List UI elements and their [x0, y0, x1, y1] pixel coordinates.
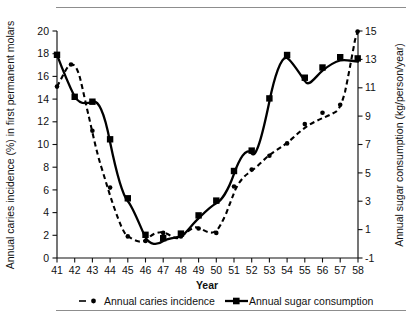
- sugar-point: [89, 99, 95, 105]
- y-left-tick-label: 18: [37, 47, 49, 59]
- caries-point: [249, 167, 254, 172]
- x-tick-label: 56: [317, 264, 329, 276]
- x-tick-label: 52: [246, 264, 258, 276]
- y-left-axis: 0 2 4 6 8 10 12 14 16 18 20 Annual carie…: [4, 21, 57, 270]
- y-right-tick-label: 1: [365, 223, 371, 235]
- legend-dot-marker-icon: [91, 299, 96, 304]
- sugar-point: [249, 147, 255, 153]
- sugar-point: [160, 235, 166, 241]
- sugar-point: [125, 195, 131, 201]
- x-axis-tick-labels: 41 42 43 44 45 46 47 48 49 50 51 52 53 5…: [51, 264, 364, 276]
- x-tick-label: 54: [281, 264, 293, 276]
- caries-point: [196, 226, 201, 231]
- y-left-tick-label: 16: [37, 70, 49, 82]
- sugar-point: [142, 232, 148, 238]
- y-left-tick-label: 0: [43, 252, 49, 264]
- caries-point: [338, 103, 343, 108]
- x-axis-ticks: [57, 258, 358, 263]
- y-left-tick-label: 8: [43, 161, 49, 173]
- y-right-tick-labels: -1 1 3 5 7 9 11 13 15: [365, 25, 377, 264]
- sugar-point: [178, 230, 184, 236]
- y-right-ticks: [358, 31, 363, 258]
- x-tick-label: 58: [352, 264, 364, 276]
- sugar-point: [107, 136, 113, 142]
- chart-legend: Annual caries incidence Annual sugar con…: [79, 295, 373, 307]
- caries-point: [161, 231, 166, 236]
- y-right-tick-label: 13: [365, 53, 377, 65]
- sugar-point: [284, 52, 290, 58]
- caries-point: [303, 122, 308, 127]
- x-tick-label: 50: [210, 264, 222, 276]
- x-tick-label: 48: [175, 264, 187, 276]
- y-right-axis-title: Annual sugar consumption (kg/person/year…: [393, 43, 405, 247]
- y-left-tick-label: 12: [37, 115, 49, 127]
- x-tick-label: 53: [264, 264, 276, 276]
- y-left-tick-labels: 0 2 4 6 8 10 12 14 16 18 20: [37, 25, 49, 264]
- x-tick-label: 45: [122, 264, 134, 276]
- sugar-point: [302, 75, 308, 81]
- caries-point: [267, 154, 272, 159]
- dual-axis-line-chart: 0 2 4 6 8 10 12 14 16 18 20 Annual carie…: [0, 0, 417, 325]
- y-right-tick-label: 5: [365, 167, 371, 179]
- y-right-tick-label: 3: [365, 195, 371, 207]
- legend-label-caries: Annual caries incidence: [104, 295, 215, 307]
- x-tick-label: 44: [104, 264, 116, 276]
- y-left-tick-label: 20: [37, 25, 49, 37]
- caries-point: [320, 110, 325, 115]
- y-left-tick-label: 10: [37, 138, 49, 150]
- y-left-tick-label: 6: [43, 184, 49, 196]
- x-tick-label: 47: [157, 264, 169, 276]
- series-annual-sugar-consumption: [54, 52, 361, 244]
- legend-item-caries[interactable]: Annual caries incidence: [79, 295, 215, 307]
- legend-label-sugar: Annual sugar consumption: [249, 295, 373, 307]
- x-tick-label: 51: [228, 264, 240, 276]
- caries-point: [108, 185, 113, 190]
- sugar-point: [54, 52, 60, 58]
- sugar-line: [57, 55, 358, 244]
- legend-square-marker-icon: [233, 298, 240, 305]
- caries-point: [232, 184, 237, 189]
- caries-point: [69, 62, 74, 67]
- caries-point: [355, 29, 360, 34]
- caries-point: [126, 234, 131, 239]
- y-left-tick-label: 14: [37, 93, 49, 105]
- figure-container: 0 2 4 6 8 10 12 14 16 18 20 Annual carie…: [0, 0, 417, 325]
- y-right-tick-label: 11: [365, 81, 376, 93]
- caries-point: [90, 129, 95, 134]
- x-tick-label: 42: [69, 264, 81, 276]
- sugar-point: [213, 197, 219, 203]
- sugar-point: [266, 95, 272, 101]
- caries-point: [214, 231, 219, 236]
- y-right-tick-label: -1: [365, 252, 374, 264]
- sugar-point: [72, 94, 78, 100]
- x-tick-label: 41: [51, 264, 63, 276]
- sugar-point: [319, 64, 325, 70]
- y-right-tick-label: 9: [365, 110, 371, 122]
- y-left-tick-label: 4: [43, 206, 49, 218]
- sugar-point: [337, 54, 343, 60]
- x-axis: 41 42 43 44 45 46 47 48 49 50 51 52 53 5…: [51, 258, 364, 291]
- sugar-point: [355, 55, 361, 61]
- x-axis-title: Year: [196, 279, 218, 291]
- x-tick-label: 55: [299, 264, 311, 276]
- y-left-axis-title: Annual caries incidence (%) in first per…: [4, 21, 16, 270]
- y-left-tick-label: 2: [43, 229, 49, 241]
- sugar-markers: [54, 52, 361, 242]
- caries-point: [55, 84, 60, 89]
- y-left-ticks: [53, 31, 58, 258]
- legend-item-sugar[interactable]: Annual sugar consumption: [225, 295, 373, 307]
- y-right-axis: -1 1 3 5 7 9 11 13 15 Annual sugar consu…: [358, 25, 405, 264]
- y-right-tick-label: 15: [365, 25, 377, 37]
- sugar-point: [231, 168, 237, 174]
- x-tick-label: 49: [193, 264, 205, 276]
- x-tick-label: 46: [140, 264, 152, 276]
- caries-point: [285, 141, 290, 146]
- y-right-tick-label: 7: [365, 138, 371, 150]
- x-tick-label: 57: [334, 264, 346, 276]
- sugar-point: [195, 212, 201, 218]
- x-tick-label: 43: [87, 264, 99, 276]
